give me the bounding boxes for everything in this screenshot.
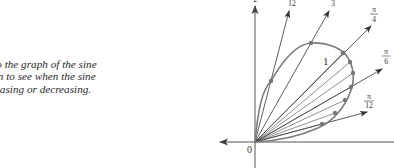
svg-text:3: 3: [331, 0, 335, 8]
svg-text:π: π: [384, 47, 388, 56]
ray-5pi-12: [255, 11, 289, 142]
ray-pi-3: [255, 11, 329, 142]
svg-text:2: 2: [253, 0, 257, 4]
svg-text:12: 12: [365, 101, 373, 110]
svg-text:4: 4: [372, 15, 376, 24]
svg-text:π: π: [372, 5, 376, 14]
label-pi-6: π 6: [382, 47, 390, 66]
label-5pi-12: 12: [287, 0, 298, 8]
curve-points: [269, 41, 355, 126]
inner-rays: [255, 53, 353, 142]
svg-text:12: 12: [288, 0, 296, 8]
curve-label: 1: [323, 55, 329, 67]
polar-loop-diagram: 0 1 π 12 π 6 π 4 3 12 2: [0, 0, 394, 168]
label-pi-3: 3: [329, 0, 337, 8]
origin-label: 0: [247, 144, 252, 155]
label-pi-12: π 12: [364, 92, 374, 110]
label-pi-2: 2: [253, 0, 257, 4]
svg-text:6: 6: [384, 57, 388, 66]
svg-text:π: π: [367, 92, 371, 101]
label-pi-4: π 4: [370, 5, 378, 24]
